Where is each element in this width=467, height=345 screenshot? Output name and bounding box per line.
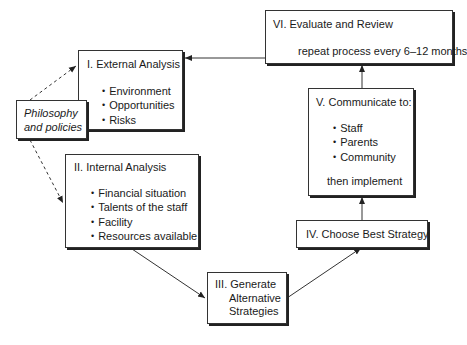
generate-line2: Alternative <box>229 292 281 305</box>
internal-analysis-list: Financial situation Talents of the staff… <box>91 187 197 245</box>
arrow-internal-to-generate <box>132 249 205 298</box>
list-item: Risks <box>102 114 175 128</box>
dashed-arrow-philosophy-to-external <box>30 66 76 100</box>
external-analysis-box: I. External Analysis Environment Opportu… <box>78 50 183 130</box>
generate-line1: III. Generate <box>215 278 276 291</box>
list-item: Financial situation <box>91 187 197 201</box>
communicate-title: V. Communicate to: <box>316 96 412 109</box>
dashed-arrow-philosophy-to-internal <box>30 140 63 203</box>
list-item: Community <box>333 151 396 165</box>
philosophy-box: Philosophy and policies <box>16 100 87 139</box>
list-item: Opportunities <box>102 99 175 113</box>
communicate-box: V. Communicate to: Staff Parents Communi… <box>308 88 414 196</box>
list-item: Environment <box>102 85 175 99</box>
internal-analysis-box: II. Internal Analysis Financial situatio… <box>65 154 199 248</box>
evaluate-review-title: VI. Evaluate and Review <box>273 18 393 31</box>
external-analysis-list: Environment Opportunities Risks <box>102 85 175 128</box>
philosophy-line2: and policies <box>24 121 82 134</box>
choose-strategy-box: IV. Choose Best Strategy <box>296 220 428 248</box>
choose-strategy-title: IV. Choose Best Strategy <box>306 228 429 241</box>
list-item: Facility <box>91 216 197 230</box>
list-item: Staff <box>333 122 396 136</box>
internal-analysis-title: II. Internal Analysis <box>74 161 166 174</box>
communicate-list: Staff Parents Community <box>333 122 396 165</box>
list-item: Talents of the staff <box>91 201 197 215</box>
list-item: Parents <box>333 136 396 150</box>
evaluate-review-note: repeat process every 6–12 months <box>298 45 467 58</box>
generate-strategies-box: III. Generate Alternative Strategies <box>207 272 287 324</box>
generate-line3: Strategies <box>229 305 279 318</box>
evaluate-review-box: VI. Evaluate and Review repeat process e… <box>265 10 453 64</box>
communicate-footer: then implement <box>327 175 402 188</box>
philosophy-line1: Philosophy <box>24 107 78 120</box>
arrow-generate-to-choose <box>287 248 361 298</box>
list-item: Resources available <box>91 230 197 244</box>
external-analysis-title: I. External Analysis <box>87 58 180 71</box>
